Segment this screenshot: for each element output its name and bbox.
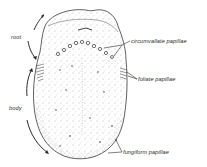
- tongue-diagram: root body circumvallate papillae foliate…: [0, 0, 207, 167]
- label-fungiform-papillae: fungiform papillae: [123, 149, 169, 155]
- label-circumvallate-papillae: circumvallate papillae: [131, 38, 187, 44]
- label-body: body: [9, 105, 22, 111]
- tongue-illustration: [0, 0, 207, 167]
- label-foliate-papillae: foliate papillae: [138, 76, 175, 82]
- label-root: root: [11, 34, 21, 40]
